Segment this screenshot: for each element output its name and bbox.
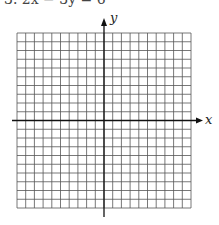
coordinate-grid [0,0,219,225]
y-axis-label: y [110,10,117,25]
x-axis-label: x [205,112,212,127]
